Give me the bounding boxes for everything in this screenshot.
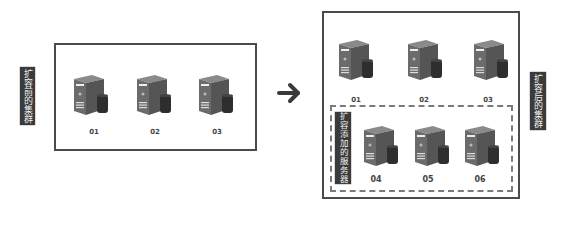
server-icon: [411, 122, 451, 170]
after-cluster-label-text: 扩容后的集群: [533, 74, 544, 128]
server-label: 02: [409, 96, 439, 104]
after-cluster-label: 扩容后的集群: [530, 72, 546, 130]
server-icon: [133, 71, 173, 119]
server-label: 05: [413, 175, 443, 184]
before-cluster-label: 扩容前的集群: [20, 67, 35, 125]
server-label: 01: [79, 128, 109, 136]
server-icon: [461, 122, 501, 170]
server-icon: [470, 36, 510, 84]
server-label: 02: [140, 128, 170, 136]
server-icon: [404, 36, 444, 84]
server-label: 03: [473, 96, 503, 104]
server-icon: [195, 71, 235, 119]
added-servers-label: 扩容添加的服务器: [335, 112, 351, 184]
before-cluster-label-text: 扩容前的集群: [22, 69, 33, 123]
server-label: 01: [341, 96, 371, 104]
server-label: 06: [465, 175, 495, 184]
server-icon: [70, 71, 110, 119]
arrow-right-icon: [277, 82, 303, 104]
server-icon: [360, 122, 400, 170]
added-servers-label-text: 扩容添加的服务器: [338, 112, 348, 184]
server-label: 03: [202, 128, 232, 136]
server-label: 04: [361, 175, 391, 184]
server-icon: [335, 36, 375, 84]
